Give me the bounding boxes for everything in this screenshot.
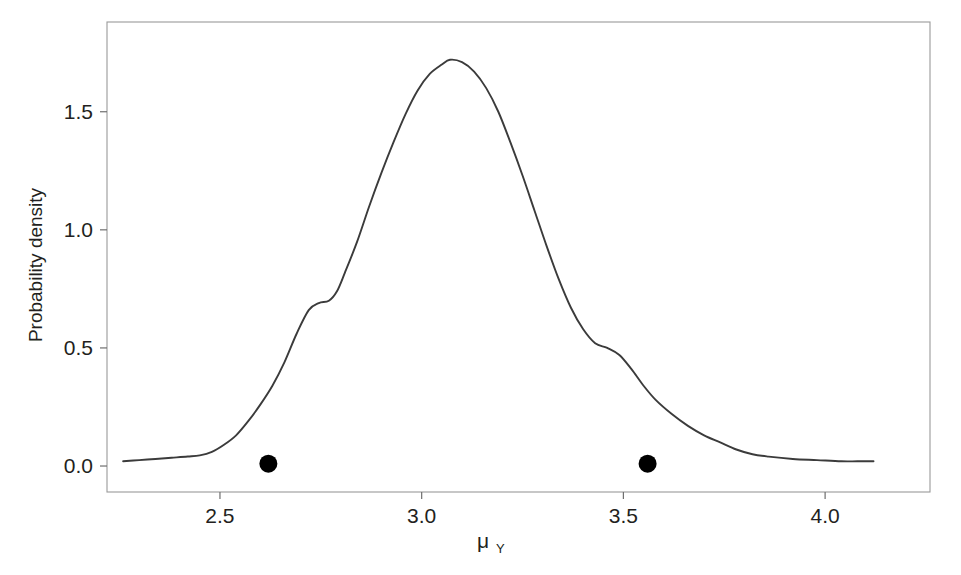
y-tick-label: 1.5	[64, 100, 93, 123]
y-tick-label: 1.0	[64, 218, 93, 241]
x-tick-label: 3.0	[407, 504, 436, 527]
y-axis-title-text: Probability density	[25, 187, 46, 342]
observed-point-marker	[259, 455, 277, 473]
observed-point-marker	[639, 455, 657, 473]
y-tick-label: 0.0	[64, 454, 93, 477]
x-axis-title-subscript: Y	[496, 541, 505, 556]
x-tick-label: 4.0	[811, 504, 840, 527]
figure-background	[0, 0, 961, 575]
x-tick-label: 3.5	[609, 504, 638, 527]
density-plot-figure: 0.00.51.01.5 2.53.03.54.0 Probability de…	[0, 0, 961, 575]
x-axis-title-text: μ	[477, 529, 489, 552]
y-tick-label: 0.5	[64, 336, 93, 359]
x-tick-label: 2.5	[205, 504, 234, 527]
y-axis-title: Probability density	[25, 187, 46, 342]
chart-canvas: 0.00.51.01.5 2.53.03.54.0 Probability de…	[0, 0, 961, 575]
